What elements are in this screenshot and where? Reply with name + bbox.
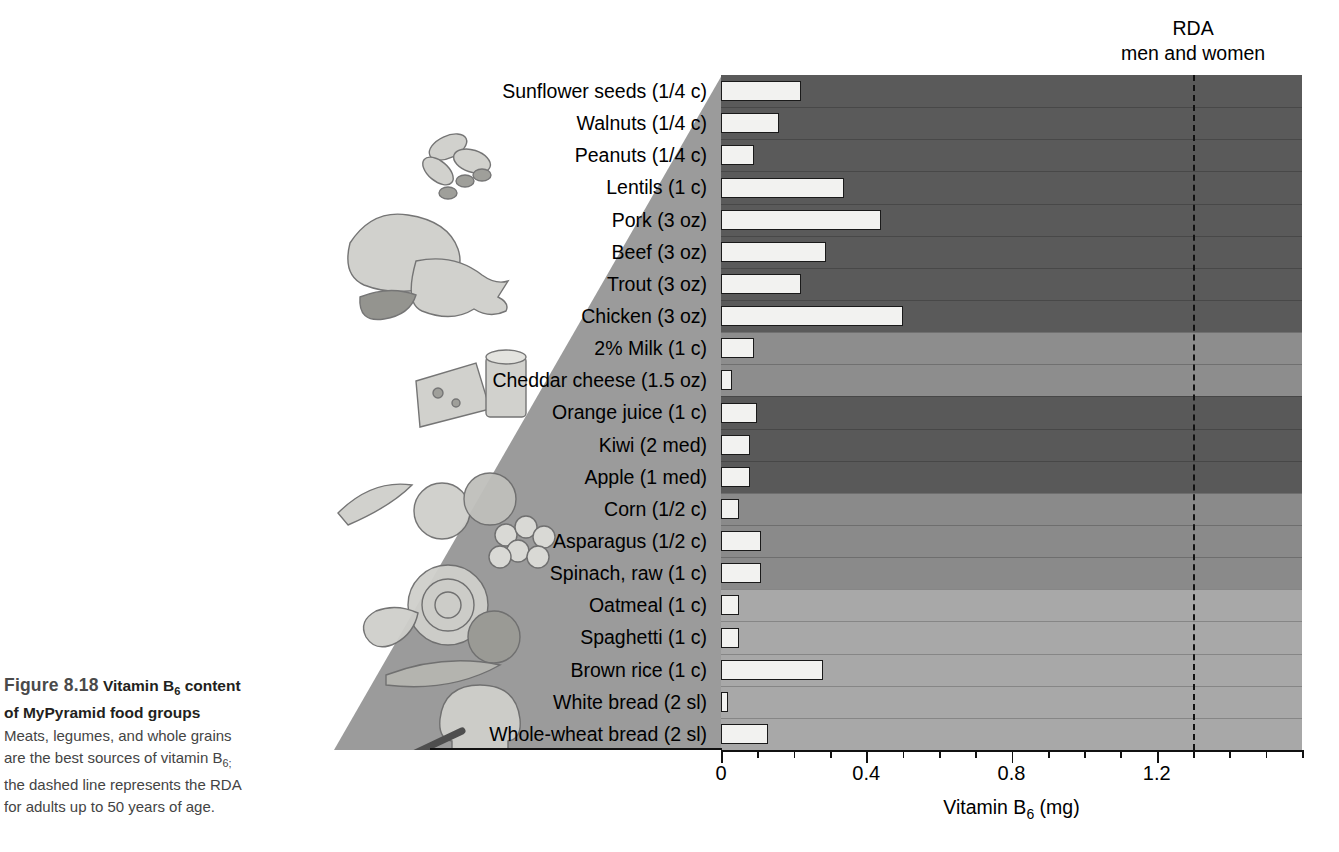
bar: [721, 306, 903, 326]
row-separator: [721, 557, 1302, 558]
category-label: Lentils (1 c): [606, 171, 707, 203]
food-group-band: [721, 493, 1302, 589]
caption-body-line1: Meats, legumes, and whole grains: [4, 725, 334, 747]
category-label: Pork (3 oz): [612, 204, 707, 236]
caption-title: Figure 8.18 Vitamin B6 content of MyPyra…: [4, 674, 334, 724]
category-label: Oatmeal (1 c): [589, 589, 707, 621]
bar: [721, 499, 739, 519]
category-label: 2% Milk (1 c): [594, 332, 707, 364]
category-label: Corn (1/2 c): [604, 493, 707, 525]
x-axis-minor-tick: [1266, 750, 1268, 758]
row-separator: [721, 654, 1302, 655]
row-separator: [721, 236, 1302, 237]
bar: [721, 531, 761, 551]
bar: [721, 338, 754, 358]
x-axis-tick-label: 0.8: [998, 762, 1026, 785]
row-separator: [721, 621, 1302, 622]
row-separator: [721, 589, 1302, 590]
row-separator: [721, 718, 1302, 719]
x-axis-minor-tick: [903, 750, 905, 758]
category-label: Orange juice (1 c): [552, 396, 707, 428]
x-axis-minor-tick: [975, 750, 977, 758]
caption-body-line4: for adults up to 50 years of age.: [4, 796, 334, 818]
bar: [721, 435, 750, 455]
x-axis-minor-tick: [1229, 750, 1231, 758]
category-label: Asparagus (1/2 c): [553, 525, 707, 557]
x-axis-minor-tick: [757, 750, 759, 758]
row-separator: [721, 429, 1302, 430]
row-separator: [721, 364, 1302, 365]
row-separator: [721, 396, 1302, 397]
category-label: Spinach, raw (1 c): [550, 557, 707, 589]
figure-caption: Figure 8.18 Vitamin B6 content of MyPyra…: [4, 674, 334, 818]
x-axis-tick-label: 0.4: [852, 762, 880, 785]
category-label: Chicken (3 oz): [581, 300, 707, 332]
caption-title-line2: of MyPyramid food groups: [4, 702, 334, 724]
x-axis-title: Vitamin B6 (mg): [721, 796, 1302, 822]
category-label: Walnuts (1/4 c): [577, 107, 707, 139]
row-separator: [721, 268, 1302, 269]
rda-annotation: RDA men and women: [1121, 16, 1265, 66]
row-separator: [721, 461, 1302, 462]
bar: [721, 113, 779, 133]
plot-area: [721, 75, 1302, 750]
bar: [721, 242, 826, 262]
bar: [721, 210, 881, 230]
bar: [721, 660, 823, 680]
category-label: Whole-wheat bread (2 sl): [489, 718, 707, 750]
bar: [721, 81, 801, 101]
row-separator: [721, 139, 1302, 140]
bar: [721, 403, 757, 423]
x-axis-minor-tick: [1084, 750, 1086, 758]
category-label: Trout (3 oz): [607, 268, 707, 300]
row-separator: [721, 332, 1302, 333]
bar: [721, 595, 739, 615]
bar: [721, 724, 768, 744]
bar: [721, 692, 728, 712]
category-label: Kiwi (2 med): [599, 429, 707, 461]
bar: [721, 274, 801, 294]
rda-label-line2: men and women: [1121, 41, 1265, 66]
food-group-band: [721, 396, 1302, 492]
caption-body-line2: are the best sources of vitamin B6;: [4, 747, 334, 774]
row-separator: [721, 171, 1302, 172]
x-axis-minor-tick: [939, 750, 941, 758]
category-label: Sunflower seeds (1/4 c): [502, 75, 707, 107]
bar: [721, 370, 732, 390]
bar: [721, 628, 739, 648]
caption-body: Meats, legumes, and whole grains are the…: [4, 725, 334, 818]
category-label: Brown rice (1 c): [570, 654, 707, 686]
rda-label-line1: RDA: [1121, 16, 1265, 41]
category-label: Spaghetti (1 c): [580, 621, 707, 653]
row-separator: [721, 107, 1302, 108]
row-separator: [721, 525, 1302, 526]
axis-baseline-extension: [430, 748, 722, 750]
row-separator: [721, 686, 1302, 687]
x-axis-minor-tick: [830, 750, 832, 758]
x-axis-minor-tick: [1302, 750, 1304, 758]
figure-number: Figure 8.18: [4, 675, 99, 695]
category-label: Peanuts (1/4 c): [575, 139, 707, 171]
bar: [721, 467, 750, 487]
row-separator: [721, 300, 1302, 301]
x-axis-minor-tick: [1048, 750, 1050, 758]
x-axis-tick-label: 0: [715, 762, 726, 785]
row-separator: [721, 204, 1302, 205]
x-axis-minor-tick: [1120, 750, 1122, 758]
caption-title-text2: content: [180, 677, 240, 694]
bar: [721, 563, 761, 583]
caption-body-line3: the dashed line represents the RDA: [4, 774, 334, 796]
caption-title-text1: Vitamin B: [103, 677, 174, 694]
category-label: Beef (3 oz): [612, 236, 707, 268]
category-label: Cheddar cheese (1.5 oz): [492, 364, 707, 396]
x-axis-minor-tick: [1193, 750, 1195, 758]
category-label: Apple (1 med): [585, 461, 707, 493]
bar: [721, 178, 844, 198]
rda-reference-line: [1193, 75, 1195, 750]
x-axis-minor-tick: [794, 750, 796, 758]
category-label-column: Sunflower seeds (1/4 c)Walnuts (1/4 c)Pe…: [300, 75, 715, 750]
bar: [721, 145, 754, 165]
category-label: White bread (2 sl): [553, 686, 707, 718]
row-separator: [721, 493, 1302, 494]
x-axis-tick-label: 1.2: [1143, 762, 1171, 785]
